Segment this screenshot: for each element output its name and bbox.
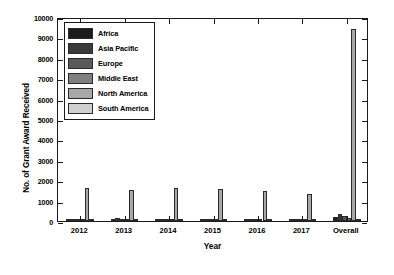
- bar: [89, 219, 94, 221]
- y-axis-tick-right: [362, 39, 367, 40]
- x-axis-tick: [347, 216, 348, 221]
- legend-label: Middle East: [98, 74, 138, 83]
- x-axis-tick-label: Overall: [333, 226, 359, 235]
- y-axis-tick-label: 9000: [11, 34, 53, 43]
- bar: [267, 219, 272, 221]
- bar: [223, 219, 228, 221]
- x-axis-tick-label: 2013: [115, 226, 132, 235]
- y-axis-tick-right: [362, 101, 367, 102]
- y-axis-tick: [58, 203, 63, 204]
- x-axis-tick: [214, 216, 215, 221]
- x-axis-tick-top: [302, 19, 303, 24]
- y-axis-tick-right: [362, 80, 367, 81]
- x-axis-tick-top: [214, 19, 215, 24]
- bar: [85, 188, 90, 221]
- x-axis-tick: [169, 216, 170, 221]
- y-axis-tick-right: [362, 121, 367, 122]
- y-axis-tick-right: [362, 60, 367, 61]
- bar: [178, 219, 183, 221]
- legend-swatch: [68, 28, 93, 39]
- x-axis-tick-label: 2017: [293, 226, 310, 235]
- y-axis-tick: [58, 101, 63, 102]
- x-axis-tick-top: [169, 19, 170, 24]
- y-axis-tick-label: 8000: [11, 54, 53, 63]
- y-axis-tick: [58, 60, 63, 61]
- y-axis-tick: [58, 80, 63, 81]
- y-axis-tick-right: [362, 141, 367, 142]
- bar: [307, 194, 312, 221]
- y-axis-tick-label: 10000: [11, 14, 53, 23]
- legend-swatch: [68, 58, 93, 69]
- y-axis-tick: [58, 182, 63, 183]
- legend-swatch: [68, 103, 93, 114]
- x-axis-tick-label: 2014: [160, 226, 177, 235]
- y-axis-tick-label: 2000: [11, 177, 53, 186]
- legend-item: Middle East: [68, 71, 149, 86]
- x-axis-tick-label: 2012: [71, 226, 88, 235]
- legend-label: Europe: [98, 59, 123, 68]
- legend-item: Asia Pacific: [68, 41, 149, 56]
- y-axis-tick-label: 7000: [11, 75, 53, 84]
- y-axis-tick-label: 6000: [11, 95, 53, 104]
- x-axis-tick: [125, 216, 126, 221]
- x-axis-tick-top: [258, 19, 259, 24]
- bar: [218, 189, 223, 221]
- y-axis-tick-right: [362, 223, 367, 224]
- x-axis-tick: [258, 216, 259, 221]
- y-axis-tick: [58, 162, 63, 163]
- legend: AfricaAsia PacificEuropeMiddle EastNorth…: [64, 22, 155, 120]
- legend-swatch: [68, 73, 93, 84]
- bar-group: [155, 19, 183, 221]
- x-axis-tick-label: 2015: [204, 226, 221, 235]
- y-axis-tick-label: 1000: [11, 197, 53, 206]
- x-axis-title: Year: [57, 241, 368, 251]
- y-axis-tick: [58, 39, 63, 40]
- legend-label: Africa: [98, 29, 118, 38]
- legend-swatch: [68, 88, 93, 99]
- y-axis-tick: [58, 223, 63, 224]
- bar-group: [289, 19, 317, 221]
- y-axis-tick: [58, 121, 63, 122]
- x-axis-tick-top: [347, 19, 348, 24]
- legend-item: Europe: [68, 56, 149, 71]
- y-axis-tick-right: [362, 182, 367, 183]
- y-axis-tick-label: 3000: [11, 156, 53, 165]
- bar: [174, 188, 179, 221]
- bar: [134, 219, 139, 221]
- y-axis-tick: [58, 19, 63, 20]
- y-axis-tick-label: 4000: [11, 136, 53, 145]
- bar: [129, 190, 134, 221]
- bar-chart: No. of Grant Award Received 010002000300…: [0, 0, 394, 275]
- legend-swatch: [68, 43, 93, 54]
- bar-group: [333, 19, 361, 221]
- x-axis-tick: [80, 216, 81, 221]
- bar: [312, 219, 317, 221]
- legend-label: North America: [98, 89, 147, 98]
- legend-item: South America: [68, 101, 149, 116]
- y-axis-tick-label: 5000: [11, 116, 53, 125]
- bar-group: [200, 19, 228, 221]
- y-axis-tick-right: [362, 19, 367, 20]
- legend-item: North America: [68, 86, 149, 101]
- x-axis-tick: [302, 216, 303, 221]
- legend-label: Asia Pacific: [98, 44, 138, 53]
- bar-group: [244, 19, 272, 221]
- bar: [356, 219, 361, 221]
- y-axis-tick: [58, 141, 63, 142]
- bar: [351, 29, 356, 221]
- y-axis-tick-labels: 0100020003000400050006000700080009000100…: [0, 18, 53, 222]
- y-axis-tick-right: [362, 162, 367, 163]
- x-axis-tick-labels: 201220132014201520162017Overall: [57, 226, 368, 240]
- x-axis-tick-label: 2016: [248, 226, 265, 235]
- legend-label: South America: [98, 104, 149, 113]
- y-axis-tick-right: [362, 203, 367, 204]
- bar: [263, 191, 268, 221]
- y-axis-tick-label: 0: [11, 218, 53, 227]
- legend-item: Africa: [68, 26, 149, 41]
